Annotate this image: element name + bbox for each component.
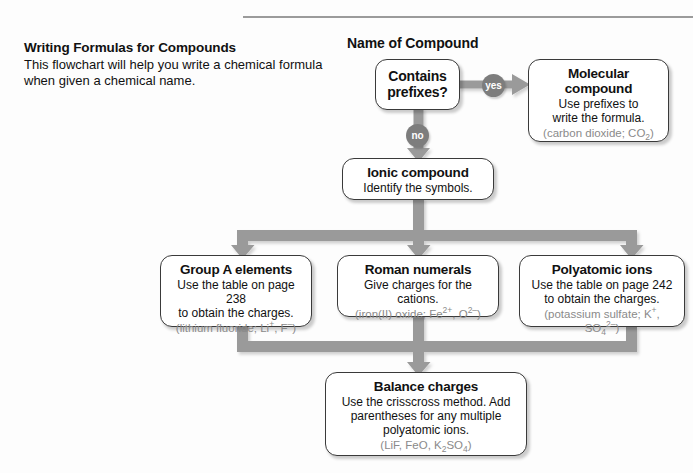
node-polyatomic-ions-body: Use the table on page 242to obtain the c… <box>526 278 678 306</box>
node-molecular-compound-body: Use prefixes towrite the formula. <box>535 97 662 125</box>
node-molecular-compound-title: Molecularcompound <box>535 66 662 96</box>
node-roman-numerals-example: (iron(II) oxide; Fe2+, O2–) <box>344 307 492 321</box>
node-molecular-compound[interactable]: Molecularcompound Use prefixes towrite t… <box>528 59 669 142</box>
edge-label-yes: yes <box>482 74 505 97</box>
node-roman-numerals[interactable]: Roman numerals Give charges for the cati… <box>337 255 499 317</box>
node-roman-numerals-body: Give charges for the cations. <box>344 278 492 306</box>
node-polyatomic-ions-title: Polyatomic ions <box>526 262 678 277</box>
node-contains-prefixes-title: Containsprefixes? <box>387 68 447 100</box>
node-group-a-elements-body: Use the table on page 238to obtain the c… <box>167 278 305 320</box>
node-polyatomic-ions-example: (potassium sulfate; K+, SO42–) <box>526 307 678 335</box>
edge-label-no: no <box>406 124 429 147</box>
node-molecular-compound-example: (carbon dioxide; CO2) <box>535 126 662 140</box>
node-balance-charges[interactable]: Balance charges Use the crisscross metho… <box>325 372 527 456</box>
node-group-a-elements-title: Group A elements <box>167 262 305 277</box>
node-balance-charges-title: Balance charges <box>332 379 520 394</box>
node-ionic-compound[interactable]: Ionic compound Identify the symbols. <box>342 158 494 200</box>
node-balance-charges-body: Use the crisscross method. Addparenthese… <box>332 395 520 437</box>
node-roman-numerals-title: Roman numerals <box>344 262 492 277</box>
distribution-bus-top <box>237 230 637 241</box>
node-group-a-elements[interactable]: Group A elements Use the table on page 2… <box>160 255 312 327</box>
node-ionic-compound-title: Ionic compound <box>349 165 487 180</box>
node-polyatomic-ions[interactable]: Polyatomic ions Use the table on page 24… <box>519 255 685 327</box>
node-contains-prefixes[interactable]: Containsprefixes? <box>375 59 460 110</box>
node-ionic-compound-body: Identify the symbols. <box>349 181 487 195</box>
flowchart-page: Writing Formulas for Compounds This flow… <box>0 0 693 473</box>
collecting-bus-bottom <box>237 341 637 352</box>
edge-ionic-stem <box>413 198 424 230</box>
node-balance-charges-example: (LiF, FeO, K2SO4) <box>332 438 520 452</box>
node-group-a-elements-example: (lithium fluoride; Li+, F–) <box>167 321 305 335</box>
